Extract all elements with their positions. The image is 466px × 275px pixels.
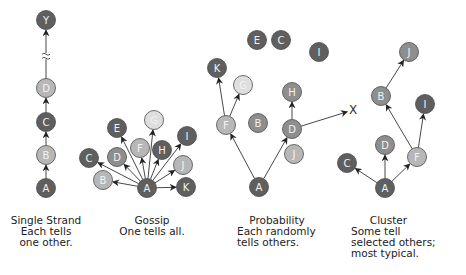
node-label: Y — [42, 15, 50, 26]
nodes-cluster: ACDFBIJ — [338, 43, 435, 198]
node-probability-F: F — [217, 116, 236, 135]
node-probability-C: C — [272, 31, 291, 50]
node-probability-K: K — [208, 59, 227, 78]
node-gossip-B: B — [94, 171, 113, 190]
node-single-strand-D: D — [37, 79, 56, 98]
nodes-layer: YDCBAABCDEFGHIJKAFKGBDJHECIACDFBIJ — [37, 11, 435, 198]
node-probability-E: E — [248, 31, 267, 50]
node-label: C — [86, 153, 93, 164]
node-label: H — [158, 145, 166, 156]
node-label: K — [214, 63, 221, 74]
edge-gossip-A-to-B — [113, 182, 138, 187]
node-label: J — [181, 160, 185, 171]
node-label: A — [382, 183, 389, 194]
edge-probability-D-to-X — [301, 112, 347, 126]
node-label: F — [414, 152, 420, 163]
break-mark-icon — [42, 53, 50, 59]
edge-gossip-A-to-G — [148, 130, 153, 179]
nodes-gossip: ABCDEFGHIJK — [80, 111, 197, 198]
caption-probability: Probability Each randomly tells others. — [237, 215, 317, 248]
caption-line: one other. — [8, 237, 84, 248]
node-cluster-J: J — [400, 43, 419, 62]
node-single-strand-C: C — [37, 113, 56, 132]
node-label: F — [223, 120, 229, 131]
node-label: D — [113, 152, 121, 163]
node-label: B — [378, 91, 385, 102]
caption-cluster: Cluster Some tell selected others; most … — [351, 215, 446, 259]
terminal-x-mark: X — [349, 103, 357, 117]
node-gossip-E: E — [108, 119, 127, 138]
node-label: A — [256, 182, 263, 193]
caption-line: most typical. — [351, 248, 446, 259]
node-gossip-F: F — [131, 139, 150, 158]
node-label: D — [288, 124, 296, 135]
edges-layer: X — [42, 30, 424, 188]
node-cluster-C: C — [338, 154, 357, 173]
node-cluster-I: I — [416, 95, 435, 114]
node-probability-A: A — [250, 178, 269, 197]
node-label: G — [150, 115, 158, 126]
node-gossip-J: J — [174, 156, 193, 175]
node-cluster-F: F — [408, 148, 427, 167]
node-probability-J: J — [285, 145, 304, 164]
node-probability-I: I — [310, 43, 329, 62]
node-single-strand-A: A — [37, 179, 56, 198]
node-label: J — [292, 149, 296, 160]
node-label: F — [137, 143, 143, 154]
node-label: J — [407, 47, 411, 58]
edge-probability-A-to-D — [264, 138, 287, 179]
node-label: B — [43, 150, 50, 161]
node-label: D — [381, 140, 389, 151]
node-gossip-A: A — [138, 179, 157, 198]
node-probability-D: D — [283, 120, 302, 139]
caption-line: One tells all. — [112, 226, 192, 237]
node-label: A — [43, 183, 50, 194]
node-label: B — [100, 175, 107, 186]
node-cluster-A: A — [376, 179, 395, 198]
edge-gossip-A-to-K — [156, 187, 176, 188]
edge-gossip-A-to-H — [150, 159, 158, 179]
node-gossip-D: D — [108, 148, 127, 167]
node-cluster-B: B — [372, 87, 391, 106]
node-label: G — [239, 80, 247, 91]
node-gossip-G: G — [145, 111, 164, 130]
caption-line: tells others. — [237, 237, 317, 248]
edge-cluster-A-to-F — [392, 164, 410, 181]
node-label: E — [114, 123, 120, 134]
edge-gossip-A-to-J — [155, 170, 175, 183]
node-probability-G: G — [234, 76, 253, 95]
node-label: C — [43, 117, 50, 128]
node-label: K — [183, 182, 190, 193]
node-label: C — [344, 158, 351, 169]
edge-cluster-A-to-C — [355, 168, 377, 182]
node-label: B — [255, 118, 262, 129]
caption-gossip: Gossip One tells all. — [112, 215, 192, 237]
edge-probability-F-to-G — [230, 94, 239, 116]
node-single-strand-Y: Y — [37, 11, 56, 30]
node-cluster-D: D — [376, 136, 395, 155]
edge-probability-F-to-K — [219, 78, 225, 116]
node-label: E — [254, 35, 260, 46]
edge-probability-A-to-F — [231, 134, 255, 179]
node-single-strand-B: B — [37, 146, 56, 165]
node-label: I — [186, 131, 189, 142]
edge-cluster-B-to-J — [386, 60, 404, 88]
node-label: I — [318, 47, 321, 58]
node-gossip-I: I — [178, 127, 197, 146]
edge-gossip-A-to-D — [124, 164, 140, 181]
node-label: H — [288, 87, 296, 98]
edge-gossip-A-to-F — [142, 158, 146, 179]
edge-cluster-F-to-I — [418, 114, 423, 148]
node-gossip-K: K — [177, 178, 196, 197]
node-label: I — [424, 99, 427, 110]
node-probability-B: B — [249, 114, 268, 133]
node-gossip-H: H — [153, 141, 172, 160]
node-label: A — [144, 183, 151, 194]
node-probability-H: H — [283, 83, 302, 102]
node-label: D — [42, 83, 50, 94]
caption-single-strand: Single Strand Each tells one other. — [8, 215, 84, 248]
node-gossip-C: C — [80, 149, 99, 168]
node-label: C — [278, 35, 285, 46]
